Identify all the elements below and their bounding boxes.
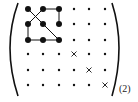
small-dot	[73, 23, 75, 25]
small-dot	[104, 53, 106, 55]
small-dot	[58, 69, 60, 71]
small-dot	[73, 84, 75, 86]
small-dot	[88, 23, 90, 25]
small-dot	[27, 84, 29, 86]
small-dot	[42, 69, 44, 71]
small-dot	[58, 84, 60, 86]
cross-mark	[103, 83, 108, 88]
cross-mark	[72, 52, 77, 57]
small-dot	[73, 69, 75, 71]
small-dot	[73, 8, 75, 10]
edge	[43, 24, 59, 40]
small-dot	[104, 69, 106, 71]
small-dot	[27, 69, 29, 71]
small-dot	[104, 8, 106, 10]
small-dot	[58, 53, 60, 55]
small-dot	[42, 84, 44, 86]
small-dot	[104, 39, 106, 41]
large-dot	[56, 21, 62, 27]
matrix-diagram	[0, 0, 138, 102]
large-dot	[40, 37, 46, 43]
small-dot	[88, 84, 90, 86]
small-dot	[88, 39, 90, 41]
small-dot	[88, 53, 90, 55]
large-dot	[56, 6, 62, 12]
small-dot	[88, 8, 90, 10]
large-dot	[25, 37, 31, 43]
small-dot	[42, 53, 44, 55]
small-dot	[73, 39, 75, 41]
large-dot	[40, 21, 46, 27]
large-dot	[25, 6, 31, 12]
large-dot	[25, 21, 31, 27]
subscript-label: (2)	[119, 83, 131, 94]
small-dot	[27, 53, 29, 55]
large-dot	[56, 37, 62, 43]
large-dot	[40, 6, 46, 12]
cross-mark	[87, 68, 92, 73]
right-parenthesis	[112, 3, 119, 96]
small-dot	[104, 23, 106, 25]
left-parenthesis	[10, 3, 18, 96]
